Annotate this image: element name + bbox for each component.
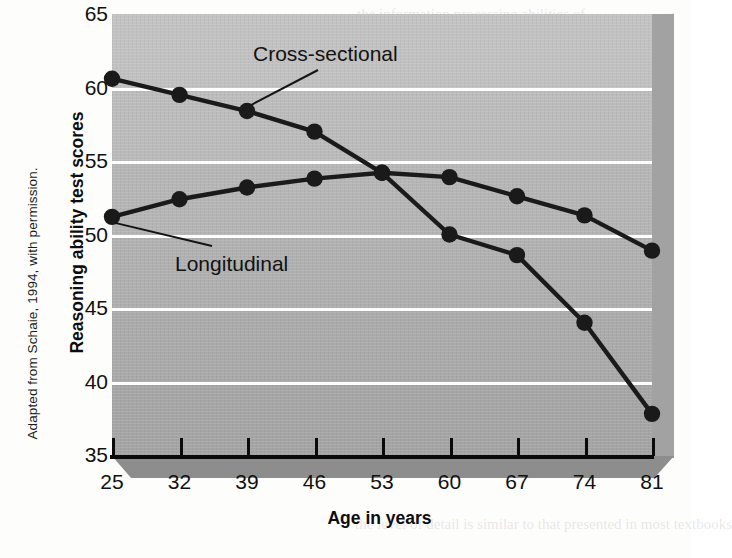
series-data-point xyxy=(374,165,390,181)
x-axis-tick-label: 67 xyxy=(487,470,547,494)
x-axis-tick-label: 74 xyxy=(555,470,615,494)
series-data-point xyxy=(239,179,255,195)
x-axis-tick-label: 25 xyxy=(82,470,142,494)
series-data-point xyxy=(239,103,255,119)
series-data-point xyxy=(306,123,322,139)
series-data-point xyxy=(104,70,120,86)
x-axis-tick-label: 39 xyxy=(217,470,277,494)
series-label-longitudinal: Longitudinal xyxy=(175,252,288,276)
series-data-point xyxy=(644,242,660,258)
series-data-point xyxy=(171,87,187,103)
series-cross-sectional xyxy=(104,70,660,422)
x-axis-tick-label: 81 xyxy=(622,470,682,494)
x-axis-title: Age in years xyxy=(0,508,691,529)
series-data-point xyxy=(509,247,525,263)
x-axis-tick-label: 46 xyxy=(285,470,345,494)
x-axis-tick-label: 53 xyxy=(352,470,412,494)
series-longitudinal xyxy=(104,165,660,259)
series-data-point xyxy=(644,406,660,422)
series-data-point xyxy=(576,315,592,331)
x-axis-tick-label: 32 xyxy=(150,470,210,494)
series-data-point xyxy=(306,170,322,186)
series-data-point xyxy=(171,191,187,207)
series-line xyxy=(112,173,652,251)
series-label-cross-sectional: Cross-sectional xyxy=(253,42,398,66)
annotation-leader-cross-sectional xyxy=(251,70,318,105)
series-data-point xyxy=(441,226,457,242)
series-data-point xyxy=(509,188,525,204)
series-data-point xyxy=(441,169,457,185)
x-axis-tick-label: 60 xyxy=(420,470,480,494)
series-data-point xyxy=(576,207,592,223)
series-line xyxy=(112,79,652,414)
annotation-leader-longitudinal xyxy=(115,223,212,246)
